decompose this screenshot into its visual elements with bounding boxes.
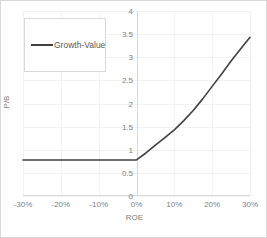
x-axis-title: ROE [1,213,267,223]
legend-item-growth-value[interactable]: Growth-Value [31,40,105,50]
y-tick-label: 4 [109,7,133,16]
gridline-horizontal [23,196,250,197]
legend[interactable]: Growth-Value [24,18,106,72]
x-tick-label: 0% [117,200,157,210]
y-tick-label: 2 [109,100,133,109]
y-tick-label: 0.5 [109,169,133,178]
chart-container: 00.511.522.533.54 -30%-20%-10%0%10%20%30… [0,0,267,238]
x-tick-label: 30% [230,200,267,210]
y-tick-label: 3.5 [109,30,133,39]
x-axis-tick-labels: -30%-20%-10%0%10%20%30% [23,200,250,212]
x-tick-label: 10% [154,200,194,210]
legend-line-swatch-icon [31,44,53,46]
x-tick-label: -30% [3,200,43,210]
x-tick-label: -20% [41,200,81,210]
x-tick-label: 20% [192,200,232,210]
y-tick-label: 3 [109,53,133,62]
y-axis-tick-labels: 00.511.522.533.54 [109,11,133,196]
y-tick-label: 1.5 [109,123,133,132]
y-tick-label: 2.5 [109,76,133,85]
x-tick-label: -10% [79,200,119,210]
y-axis-title: P/B [2,84,12,120]
gridline-vertical [250,11,251,196]
y-tick-label: 1 [109,146,133,155]
legend-item-label: Growth-Value [54,40,105,50]
